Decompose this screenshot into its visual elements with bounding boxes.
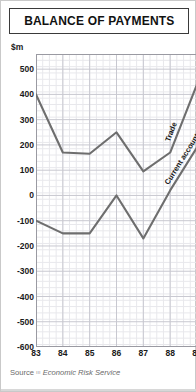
y-tick-label: -500 (17, 317, 34, 327)
chart-card: BALANCE OF PAYMENTS $m 5004003002001000-… (0, 0, 196, 392)
x-tick-label: 86 (112, 348, 121, 358)
y-tick-label: -400 (17, 292, 34, 302)
y-tick-label: -200 (17, 241, 34, 251)
x-tick-label: 89 (192, 348, 196, 358)
x-tick-label: 88 (165, 348, 174, 358)
x-tick-label: 85 (85, 348, 94, 358)
x-tick-label: 87 (139, 348, 148, 358)
page-title: BALANCE OF PAYMENTS (24, 14, 174, 28)
bottom-divider (1, 389, 196, 391)
y-tick-label: 100 (20, 165, 34, 175)
y-tick-label: 400 (20, 89, 34, 99)
chart-title-box: BALANCE OF PAYMENTS (9, 8, 189, 34)
x-tick-label: 84 (58, 348, 67, 358)
chart-grid-and-series: TradeCurrent account (36, 54, 196, 347)
source-note: SourceıııEconomic Risk Service (10, 368, 120, 377)
x-tick-label: 83 (31, 348, 40, 358)
source-divider-mark: ııı (34, 369, 43, 375)
y-axis-tick-labels: 5004003002001000-100-200-300-400-500-600 (9, 42, 36, 347)
y-tick-label: 0 (29, 190, 34, 200)
chart-svg (36, 54, 196, 347)
x-axis-tick-labels: 83848586878889 (36, 347, 196, 361)
chart-plot-area: $m 5004003002001000-100-200-300-400-500-… (9, 42, 189, 352)
y-tick-label: 300 (20, 115, 34, 125)
y-tick-label: -300 (17, 266, 34, 276)
y-tick-label: 500 (20, 64, 34, 74)
source-name: Economic Risk Service (43, 368, 121, 377)
y-tick-label: 200 (20, 140, 34, 150)
y-tick-label: -100 (17, 216, 34, 226)
source-label: Source (10, 368, 34, 377)
